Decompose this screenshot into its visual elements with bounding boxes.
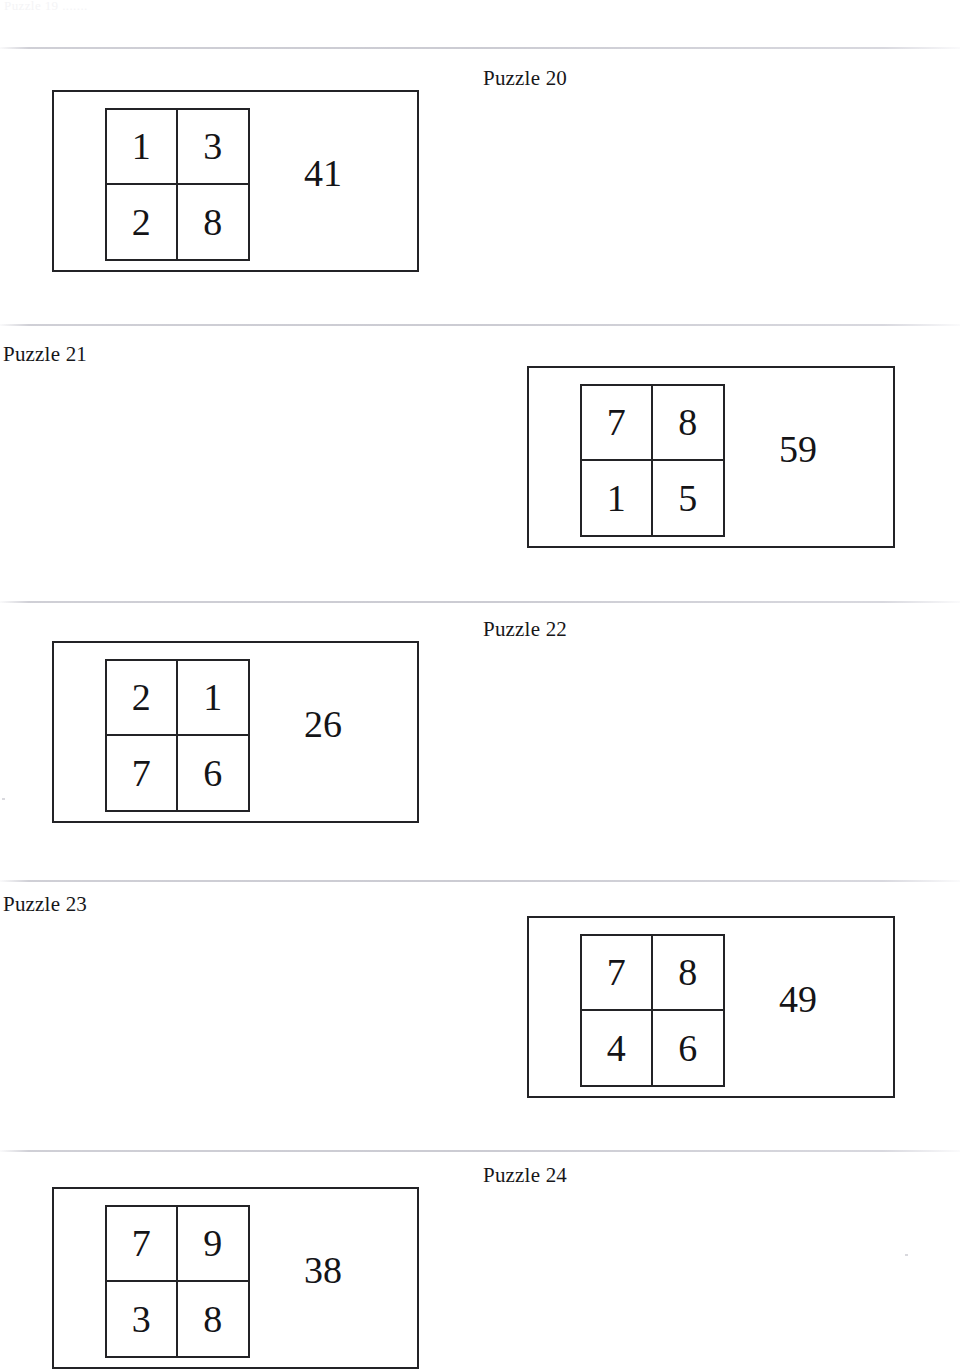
section-separator-rule-1 bbox=[0, 47, 960, 49]
grid-cell: 6 bbox=[178, 736, 249, 811]
grid-cell: 2 bbox=[107, 185, 178, 260]
grid-cell: 6 bbox=[653, 1011, 724, 1086]
puzzle-card-21: 7 8 1 5 59 bbox=[527, 366, 895, 548]
puzzle-label-22: Puzzle 22 bbox=[483, 619, 567, 640]
section-separator-rule-3 bbox=[0, 601, 960, 603]
grid-cell: 4 bbox=[582, 1011, 653, 1086]
puzzle-label-23: Puzzle 23 bbox=[3, 894, 87, 915]
grid-cell: 1 bbox=[107, 110, 178, 185]
puzzle-answer-24: 38 bbox=[304, 1251, 342, 1289]
section-separator-rule-5 bbox=[0, 1150, 960, 1152]
grid-cell: 3 bbox=[178, 110, 249, 185]
grid-cell: 9 bbox=[178, 1207, 249, 1282]
scan-speck bbox=[905, 1254, 908, 1256]
puzzle-card-22: 2 1 7 6 26 bbox=[52, 641, 419, 823]
grid-cell: 7 bbox=[107, 736, 178, 811]
puzzle-answer-23: 49 bbox=[779, 980, 817, 1018]
section-separator-rule-2 bbox=[0, 324, 960, 326]
puzzle-label-24: Puzzle 24 bbox=[483, 1165, 567, 1186]
section-separator-rule-4 bbox=[0, 880, 960, 882]
grid-cell: 3 bbox=[107, 1282, 178, 1357]
puzzle-grid-24: 7 9 3 8 bbox=[105, 1205, 250, 1358]
puzzle-label-20: Puzzle 20 bbox=[483, 68, 567, 89]
grid-cell: 7 bbox=[582, 936, 653, 1011]
grid-cell: 7 bbox=[107, 1207, 178, 1282]
puzzle-grid-23: 7 8 4 6 bbox=[580, 934, 725, 1087]
puzzle-answer-22: 26 bbox=[304, 705, 342, 743]
grid-cell: 5 bbox=[653, 461, 724, 536]
puzzle-grid-22: 2 1 7 6 bbox=[105, 659, 250, 812]
grid-cell: 7 bbox=[582, 386, 653, 461]
grid-cell: 8 bbox=[178, 1282, 249, 1357]
puzzle-card-20: 1 3 2 8 41 bbox=[52, 90, 419, 272]
grid-cell: 8 bbox=[653, 936, 724, 1011]
scan-header-artifact: Puzzle 19 ....... bbox=[4, 0, 88, 14]
puzzle-grid-20: 1 3 2 8 bbox=[105, 108, 250, 261]
scan-speck bbox=[2, 798, 5, 800]
grid-cell: 1 bbox=[582, 461, 653, 536]
grid-cell: 8 bbox=[178, 185, 249, 260]
puzzle-answer-20: 41 bbox=[304, 154, 342, 192]
grid-cell: 2 bbox=[107, 661, 178, 736]
grid-cell: 8 bbox=[653, 386, 724, 461]
puzzle-grid-21: 7 8 1 5 bbox=[580, 384, 725, 537]
puzzle-answer-21: 59 bbox=[779, 430, 817, 468]
puzzle-card-23: 7 8 4 6 49 bbox=[527, 916, 895, 1098]
puzzle-label-21: Puzzle 21 bbox=[3, 344, 87, 365]
puzzle-card-24: 7 9 3 8 38 bbox=[52, 1187, 419, 1369]
grid-cell: 1 bbox=[178, 661, 249, 736]
